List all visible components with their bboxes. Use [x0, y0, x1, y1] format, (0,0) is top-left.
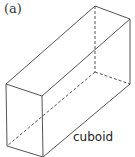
edge-top-front: [6, 84, 42, 96]
edge-top-back: [95, 6, 130, 19]
edge-front-left: [6, 84, 7, 146]
edge-top-right: [42, 19, 130, 96]
hidden-edge-bottom-back: [95, 72, 130, 84]
edge-bottom-right: [43, 84, 130, 157]
edge-bottom-front: [7, 146, 43, 157]
edge-top-left: [6, 6, 95, 84]
shape-name-label: cuboid: [73, 130, 113, 144]
edge-front-right: [42, 96, 43, 157]
cuboid-drawing: [0, 0, 135, 157]
